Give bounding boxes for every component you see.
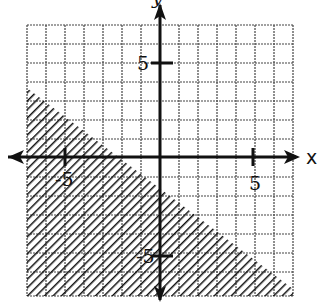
x-tick-label-5: 5 <box>249 172 261 194</box>
y-tick-label-neg5: -5 <box>136 245 155 267</box>
y-axis-label: y <box>152 0 163 8</box>
x-axis-label: x <box>306 146 317 168</box>
x-tick-label-neg5: -5 <box>55 168 74 190</box>
coordinate-plane <box>0 0 321 307</box>
y-tick-label-5: 5 <box>137 52 149 74</box>
